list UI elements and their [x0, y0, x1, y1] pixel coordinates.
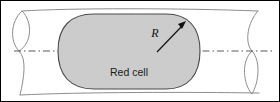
- tube-bottom-wall: [20, 92, 259, 95]
- red-cell-label: Red cell: [110, 66, 148, 78]
- tube-left-end-ellipse: [13, 11, 24, 95]
- capillary-diagram: R Red cell: [0, 0, 280, 102]
- tube-right-end-ellipse-back: [244, 51, 252, 94]
- tube-right-end-ellipse: [248, 11, 258, 94]
- tube-top-wall: [22, 9, 258, 11]
- tube-left-end-ellipse-back: [19, 11, 30, 51]
- figure-container: R Red cell: [0, 0, 280, 102]
- radius-label: R: [150, 26, 159, 40]
